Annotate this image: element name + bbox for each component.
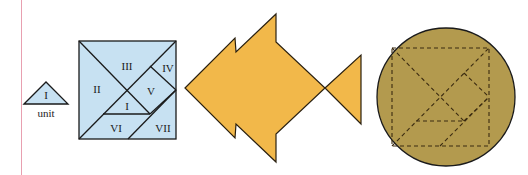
piece-label-iii: III bbox=[122, 60, 133, 72]
unit-triangle: I unit bbox=[24, 82, 68, 119]
piece-label-iv: IV bbox=[162, 62, 174, 74]
circle-shape bbox=[377, 28, 515, 166]
tangram-square: II III IV V I VI VII bbox=[79, 41, 176, 139]
fish-shape bbox=[185, 14, 361, 162]
piece-label-vii: VII bbox=[155, 122, 171, 134]
piece-label-vi: VI bbox=[110, 122, 122, 134]
piece-label-ii: II bbox=[93, 83, 101, 95]
piece-label-v: V bbox=[147, 85, 155, 97]
piece-label-i: I bbox=[125, 100, 129, 112]
tangram-figure: I unit II III IV V I VI VII bbox=[0, 0, 528, 175]
unit-caption: unit bbox=[37, 107, 54, 119]
unit-triangle-label: I bbox=[44, 89, 48, 101]
